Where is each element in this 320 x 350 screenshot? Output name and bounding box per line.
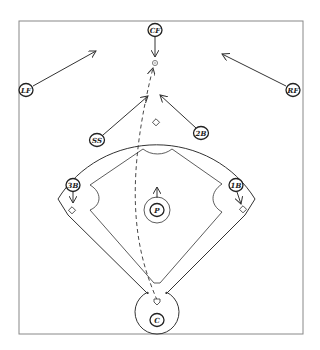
player-rf: RF [286, 84, 300, 97]
ss-arrow [103, 96, 148, 135]
svg-text:1B: 1B [231, 181, 242, 190]
player-lf: LF [19, 84, 33, 97]
second-base [152, 119, 159, 126]
baseball-field-diagram: CF LF RF SS 2B 3B 1B P C [0, 0, 320, 350]
svg-text:CF: CF [150, 26, 162, 35]
player-2b: 2B [194, 127, 209, 140]
svg-text:RF: RF [287, 86, 300, 95]
infield-dirt-outline [58, 145, 255, 334]
player-1b: 1B [229, 179, 243, 192]
svg-text:3B: 3B [68, 181, 79, 190]
player-p: P [150, 204, 164, 217]
svg-text:LF: LF [20, 86, 32, 95]
rf-arrow [222, 54, 286, 86]
player-c: C [150, 314, 164, 327]
third-base [68, 207, 75, 214]
svg-text:SS: SS [92, 136, 102, 145]
field-svg: CF LF RF SS 2B 3B 1B P C [0, 0, 320, 350]
ball-icon [152, 60, 157, 65]
player-ss: SS [90, 134, 105, 147]
svg-text:C: C [154, 316, 160, 325]
home-plate [154, 299, 160, 305]
player-cf: CF [148, 24, 162, 37]
1b-arrow [237, 192, 241, 204]
2b-arrow [160, 95, 196, 128]
svg-text:P: P [153, 206, 160, 215]
lf-arrow [33, 51, 96, 86]
svg-text:2B: 2B [195, 129, 207, 138]
ball-center [154, 62, 156, 64]
diagram-frame [19, 21, 303, 334]
first-base [239, 206, 246, 213]
player-3b: 3B [66, 179, 80, 192]
